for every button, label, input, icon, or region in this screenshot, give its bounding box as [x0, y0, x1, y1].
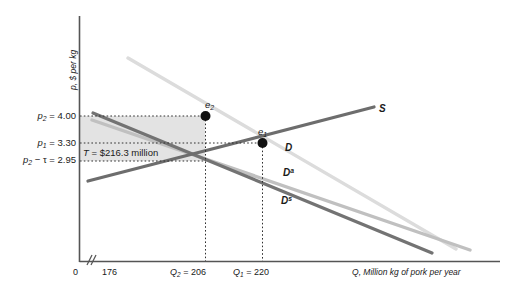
x-tick-label-176: 176	[102, 268, 117, 277]
equilibrium-point-e1	[258, 138, 268, 148]
curve-label-ds: Ds	[281, 196, 292, 206]
x-tick-q1-value: = 220	[244, 267, 269, 277]
x-tick-label-origin: 0	[73, 268, 78, 277]
tax-revenue-annotation: T = $216.3 million	[83, 148, 158, 158]
y-tick-p2-value: = 4.00	[47, 110, 76, 121]
point-label-e2: e2	[205, 100, 214, 112]
y-tick-label-p2-minus-tau: p2 − τ = 2.95	[4, 155, 76, 167]
point-label-e1-subscript: 1	[263, 131, 267, 138]
curve-label-ds-superscript: s	[288, 195, 292, 202]
x-axis-title: Q, Million kg of pork per year	[352, 268, 461, 277]
x-tick-q2-value: = 206	[181, 267, 206, 277]
equilibrium-point-e2	[201, 111, 211, 121]
curve-label-s-text: S	[379, 103, 386, 114]
demand-curve-da	[92, 120, 470, 250]
curve-label-d-text: D	[285, 142, 292, 153]
point-label-e1: e1	[258, 127, 267, 139]
tax-revenue-value: = $216.3 million	[89, 147, 158, 158]
y-tick-label-p2: p2 = 4.00	[16, 111, 76, 123]
x-tick-label-q1: Q1 = 220	[233, 268, 269, 278]
chart-canvas	[0, 0, 513, 294]
point-label-e2-subscript: 2	[210, 104, 214, 111]
curve-label-da: Da	[283, 168, 294, 178]
curve-label-da-superscript: a	[290, 167, 294, 174]
y-axis-title: p, $ per kg	[56, 14, 70, 90]
x-axis-title-text: , Million kg of pork per year	[359, 267, 461, 277]
curve-label-d: D	[285, 143, 292, 153]
x-tick-label-q2: Q2 = 206	[170, 268, 206, 278]
pork-tax-incidence-figure: p, $ per kg p2 = 4.00 p1 = 3.30 p2 − τ =…	[0, 0, 513, 294]
curve-label-s: S	[379, 104, 386, 114]
y-tick-p2tau-value: − τ = 2.95	[32, 154, 76, 165]
y-tick-label-p1: p1 = 3.30	[16, 138, 76, 150]
y-tick-p1-value: = 3.30	[47, 137, 76, 148]
